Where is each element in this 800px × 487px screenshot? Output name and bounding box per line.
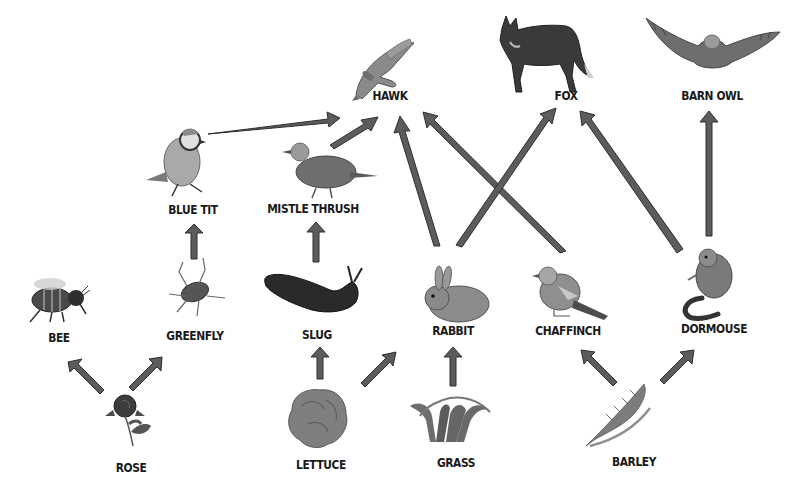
arrow-chaffinch-to-hawk	[423, 112, 566, 253]
rose-icon	[105, 395, 151, 446]
label-greenfly: GREENFLY	[160, 328, 230, 343]
label-chaffinch: CHAFFINCH	[528, 323, 608, 338]
chaffinch-icon	[532, 267, 608, 320]
dormouse-icon	[685, 249, 732, 319]
arrow-rabbit-to-hawk	[394, 116, 440, 246]
label-barn-owl: BARN OWL	[674, 88, 749, 103]
label-dormouse: DORMOUSE	[674, 321, 755, 336]
label-blue-tit: BLUE TIT	[163, 202, 223, 217]
label-fox: FOX	[552, 88, 580, 103]
grass-icon	[410, 398, 490, 442]
arrow-rose-to-bee	[68, 359, 104, 394]
barn-owl-icon	[646, 18, 780, 68]
arrow-grass-to-rabbit	[444, 347, 462, 386]
arrow-dormouse-to-barn-owl	[700, 111, 718, 236]
food-web-diagram: HAWK FOX BARN OWL BLUE TIT MISTLE THRUSH…	[0, 0, 800, 487]
arrow-rose-to-greenfly	[129, 357, 162, 391]
label-rose: ROSE	[112, 460, 149, 475]
mistle-thrush-icon	[282, 143, 378, 198]
label-grass: GRASS	[433, 455, 479, 470]
arrow-blue-tit-to-hawk	[208, 112, 340, 134]
lettuce-icon	[289, 390, 347, 448]
blue-tit-icon	[146, 128, 206, 196]
arrow-lettuce-to-slug	[311, 347, 329, 379]
rabbit-icon	[425, 265, 489, 322]
food-web-canvas	[0, 0, 800, 487]
fox-icon	[500, 16, 594, 92]
arrow-lettuce-to-rabbit	[361, 352, 396, 387]
label-slug: SLUG	[299, 327, 335, 342]
label-lettuce: LETTUCE	[291, 457, 352, 472]
arrow-mistle-thrush-to-hawk	[330, 117, 378, 149]
slug-icon	[265, 266, 362, 312]
label-barley: BARLEY	[607, 454, 661, 469]
bee-icon	[30, 278, 90, 322]
barley-icon	[586, 384, 650, 446]
arrow-slug-to-mistle-thrush	[307, 222, 325, 262]
label-hawk: HAWK	[369, 88, 412, 103]
greenfly-icon	[169, 258, 225, 316]
arrow-greenfly-to-blue-tit	[185, 224, 203, 259]
arrow-barley-to-chaffinch	[581, 350, 617, 386]
arrow-dormouse-to-fox	[580, 111, 683, 253]
label-rabbit: RABBIT	[428, 323, 479, 338]
label-mistle-thrush: MISTLE THRUSH	[257, 201, 369, 216]
label-bee: BEE	[46, 330, 72, 345]
arrow-barley-to-dormouse	[660, 350, 694, 384]
